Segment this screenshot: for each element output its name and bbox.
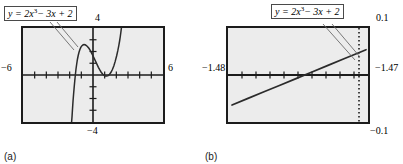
equation-lhs-a: y = 2x: [8, 8, 34, 19]
figure-container: −6 6 4 −4 y = 2x3− 3x + 2 (a): [0, 0, 403, 164]
equation-rest-a: − 3x + 2: [37, 8, 72, 19]
axis-label-top-a: 4: [95, 12, 100, 23]
panel-b: −1.48 −1.47 0.1 −0.1 y = 2x3− 3x + 2 (b): [201, 0, 402, 164]
axis-label-top-b: 0.1: [376, 12, 389, 23]
graph-screen-a: [21, 26, 165, 124]
equation-lhs-b: y = 2x: [275, 6, 301, 17]
axis-label-bottom-a: −4: [87, 125, 98, 136]
graph-svg-a: [23, 28, 163, 122]
axis-label-right-a: 6: [168, 62, 173, 73]
graph-svg-b: [228, 28, 368, 122]
axis-label-left-a: −6: [1, 62, 12, 73]
equation-label-a: y = 2x3− 3x + 2: [4, 6, 77, 21]
equation-rest-b: − 3x + 2: [304, 6, 339, 17]
graph-screen-b: [226, 26, 370, 124]
axis-label-right-b: −1.47: [375, 62, 398, 73]
caption-b: (b): [205, 151, 217, 162]
axis-label-left-b: −1.48: [202, 62, 225, 73]
curve-b: [232, 50, 366, 105]
panel-a: −6 6 4 −4 y = 2x3− 3x + 2 (a): [0, 0, 201, 164]
caption-a: (a): [4, 151, 16, 162]
axis-label-bottom-b: −0.1: [370, 125, 388, 136]
equation-label-b: y = 2x3− 3x + 2: [271, 4, 344, 19]
